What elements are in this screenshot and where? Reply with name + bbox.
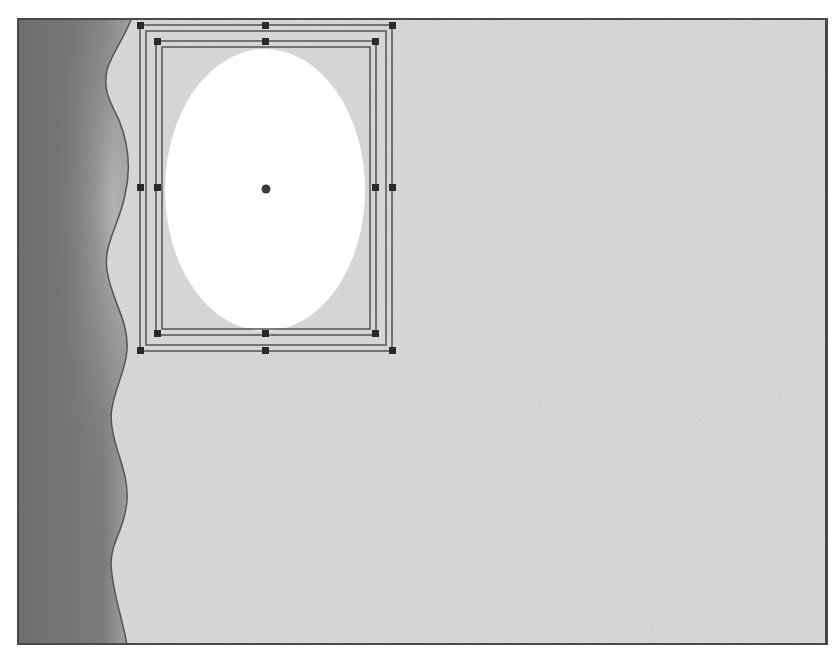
resize-handle-outer-sw[interactable] (137, 347, 144, 354)
resize-handle-inner-se[interactable] (372, 330, 379, 337)
resize-handle-inner-ne[interactable] (372, 38, 379, 45)
resize-handle-outer-n[interactable] (262, 22, 269, 29)
resize-handle-inner-sw[interactable] (154, 330, 161, 337)
resize-handle-outer-se[interactable] (389, 347, 396, 354)
resize-handle-inner-w[interactable] (154, 184, 161, 191)
resize-handle-outer-s[interactable] (262, 347, 269, 354)
drawing-canvas[interactable] (17, 18, 828, 645)
canvas-artwork[interactable] (19, 20, 827, 645)
resize-handle-inner-n[interactable] (262, 38, 269, 45)
resize-handle-outer-ne[interactable] (389, 22, 396, 29)
resize-handle-outer-w[interactable] (137, 184, 144, 191)
resize-handle-outer-e[interactable] (389, 184, 396, 191)
resize-handle-inner-nw[interactable] (154, 38, 161, 45)
center-point-handle[interactable] (262, 185, 271, 194)
resize-handle-inner-e[interactable] (372, 184, 379, 191)
resize-handle-outer-nw[interactable] (137, 22, 144, 29)
resize-handle-inner-s[interactable] (262, 330, 269, 337)
